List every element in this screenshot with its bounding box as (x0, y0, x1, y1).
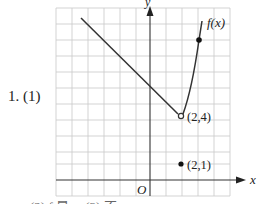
origin-label: O (137, 182, 147, 197)
function-label: f(x) (207, 15, 225, 30)
x-axis-label: x (249, 172, 256, 187)
curve-piece (183, 21, 202, 114)
y-axis-label: y (144, 0, 151, 9)
point-label-2-4: (2,4) (187, 110, 211, 124)
function-graph: x y O f(x) (2,4) (2,1) (0, 0, 260, 204)
cut-off-next-line: (2) f 是 ... (3) 不 ... (30, 196, 130, 204)
x-axis-arrow-icon (236, 177, 246, 184)
y-axis (147, 6, 154, 196)
point-label-2-1: (2,1) (187, 158, 211, 172)
open-point-2-4 (178, 113, 183, 118)
x-axis (56, 177, 246, 184)
filled-point-2-1 (178, 161, 183, 166)
linear-piece (81, 18, 178, 114)
curve-marked-point (196, 37, 202, 43)
